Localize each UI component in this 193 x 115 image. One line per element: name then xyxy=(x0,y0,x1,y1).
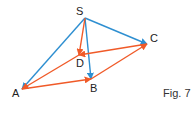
vector-pyramid-diagram: S C D A B Fig. 7 xyxy=(0,0,193,115)
vector-sb xyxy=(85,18,91,79)
point-label-d: D xyxy=(76,57,84,69)
vector-cd xyxy=(79,44,147,55)
point-label-b: B xyxy=(90,82,97,94)
vector-lines xyxy=(22,18,147,89)
vector-bc xyxy=(91,44,147,79)
figure-caption: Fig. 7 xyxy=(163,87,191,99)
vector-sc xyxy=(85,18,147,44)
vector-sa xyxy=(22,18,85,89)
point-label-c: C xyxy=(150,32,158,44)
vector-da xyxy=(22,55,79,89)
point-label-s: S xyxy=(76,5,83,17)
point-label-a: A xyxy=(12,87,20,99)
vector-ab xyxy=(22,79,91,89)
